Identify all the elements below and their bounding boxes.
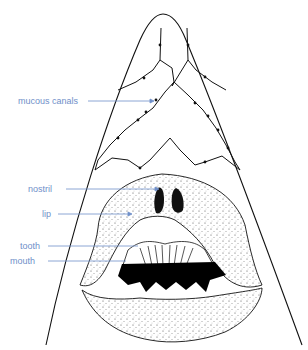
label-mucous-canals: mucous canals bbox=[18, 96, 78, 106]
label-mouth: mouth bbox=[10, 256, 35, 266]
label-tooth: tooth bbox=[20, 241, 40, 251]
lower-jaw bbox=[82, 288, 262, 342]
shark-head-illustration bbox=[0, 0, 308, 350]
label-nostril: nostril bbox=[28, 184, 52, 194]
mouth-opening bbox=[118, 262, 226, 292]
label-lip: lip bbox=[42, 209, 51, 219]
